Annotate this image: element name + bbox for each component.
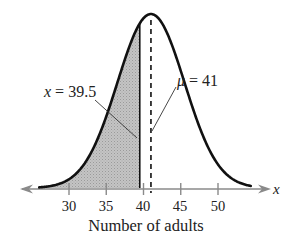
- tick-label: 30: [62, 198, 77, 214]
- mu-annotation-var: μ: [176, 72, 185, 90]
- tick-label: 35: [99, 198, 114, 214]
- tick-label: 45: [173, 198, 188, 214]
- x-tick-labels: 30 35 40 45 50: [62, 198, 226, 214]
- mu-annotation-value: = 41: [185, 72, 218, 89]
- x-axis-title: Number of adults: [88, 216, 203, 235]
- tick-label: 50: [211, 198, 226, 214]
- x-annotation-var: x: [43, 83, 51, 100]
- x-annotation-label: x = 39.5: [43, 83, 96, 100]
- x-annotation-value: = 39.5: [51, 83, 96, 100]
- mu-annotation-leader: [152, 87, 176, 131]
- mu-annotation-label: μ = 41: [176, 72, 218, 90]
- normal-distribution-chart: x = 39.5 μ = 41 x 30 35 40 45 50 Number …: [0, 0, 291, 243]
- x-axis-variable: x: [272, 181, 280, 197]
- shaded-region: [39, 23, 140, 188]
- tick-label: 40: [136, 198, 151, 214]
- normal-curve: [39, 14, 251, 187]
